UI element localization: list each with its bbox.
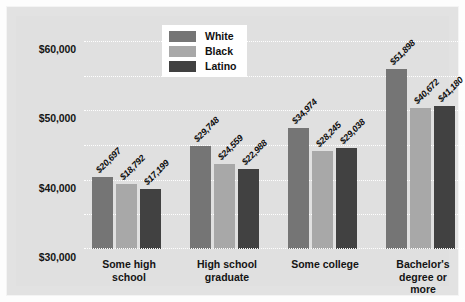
y-axis-tick-label: $60,000 [39,43,76,55]
bar-slot: $28,245 [312,34,333,249]
x-axis-baseline [84,248,465,249]
bar-group: $34,974$28,245$29,038 [288,34,362,249]
category-label: Some college [278,258,372,271]
bar-value-label: $22,988 [239,138,268,167]
legend-swatch-icon [169,31,196,42]
legend-swatch-icon [169,46,196,57]
category-label: High school graduate [180,258,274,283]
category-label: Bachelor's degree or more [376,258,465,296]
bar-black[interactable]: $24,559 [214,164,235,249]
chart-page: $10,000$20,000$30,000$40,000$50,000$60,0… [0,0,465,302]
bar-slot: $34,974 [288,34,309,249]
legend-label: Latino [205,60,237,72]
bar-slot: $18,792 [116,34,137,249]
bar-group: $20,697$18,792$17,199 [92,34,166,249]
bar-slot: $20,697 [92,34,113,249]
bar-value-label: $17,199 [141,158,170,187]
bar-white[interactable]: $29,748 [190,146,211,249]
chart-legend: WhiteBlackLatino [162,25,247,77]
y-axis-tick-label: $50,000 [39,112,76,124]
legend-label: Black [205,45,233,57]
bar-slot: $17,199 [140,34,161,249]
bar-value-label: $29,038 [337,117,366,146]
bar-slot: $40,672 [410,34,431,249]
bar-slot: $29,038 [336,34,357,249]
legend-label: White [205,30,234,42]
bar-slot: $41,180 [434,34,455,249]
plot-area: $10,000$20,000$30,000$40,000$50,000$60,0… [84,34,465,249]
chart-frame: $10,000$20,000$30,000$40,000$50,000$60,0… [6,6,459,296]
bar-latino[interactable]: $17,199 [140,189,161,249]
bar-slot: $51,898 [386,34,407,249]
bar-latino[interactable]: $22,988 [238,169,259,249]
legend-item-white[interactable]: White [169,30,237,42]
chart-panel: $10,000$20,000$30,000$40,000$50,000$60,0… [16,16,449,286]
bar-latino[interactable]: $41,180 [434,106,455,249]
legend-item-black[interactable]: Black [169,45,237,57]
bar-white[interactable]: $34,974 [288,128,309,249]
bar-black[interactable]: $18,792 [116,184,137,249]
legend-item-latino[interactable]: Latino [169,60,237,72]
bar-black[interactable]: $40,672 [410,108,431,249]
y-axis-tick-label: $30,000 [39,251,76,263]
bar-value-label: $41,180 [435,75,464,104]
bar-white[interactable]: $20,697 [92,177,113,249]
bar-white[interactable]: $51,898 [386,69,407,249]
bar-black[interactable]: $28,245 [312,151,333,249]
bar-group: $51,898$40,672$41,180 [386,34,460,249]
legend-swatch-icon [169,61,196,72]
y-axis-tick-label: $40,000 [39,182,76,194]
bar-latino[interactable]: $29,038 [336,148,357,249]
category-label: Some high school [82,258,176,283]
